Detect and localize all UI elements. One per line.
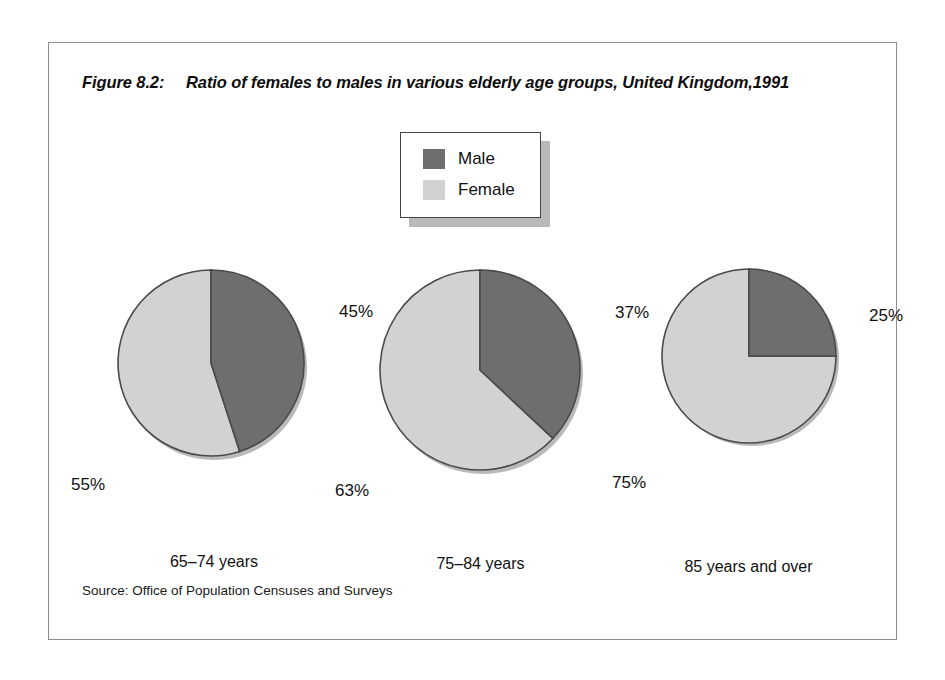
pie-label-male-75-84: 37% [615,303,649,323]
source-note: Source: Office of Population Censuses an… [82,583,392,598]
pie-category-75-84: 75–84 years [378,555,583,573]
pie-slices-75-84 [380,270,580,470]
pie-label-male-65-74: 45% [339,302,373,322]
pie-svg-85-over [662,268,852,458]
legend-box: Male Female [400,132,541,218]
pie-svg-65-74 [111,263,311,463]
figure-frame: Figure 8.2:Ratio of females to males in … [48,42,897,640]
pie-category-65-74: 65–74 years [114,553,314,571]
legend-label-female: Female [458,180,515,200]
pie-label-female-65-74: 55% [71,475,105,495]
pie-slice-male-85-over[interactable] [749,269,836,356]
legend-swatch-male-icon [423,149,445,169]
pie-slices-85-over [662,269,836,443]
figure-title: Figure 8.2:Ratio of females to males in … [82,73,872,92]
pie-chart-85-over: 25% 75% 85 years and over [662,268,852,458]
pie-svg-75-84 [375,265,585,475]
pie-chart-65-74: 45% 55% 65–74 years [111,263,311,463]
legend-item-female[interactable]: Female [423,180,515,200]
legend-item-male[interactable]: Male [423,149,495,169]
pie-category-85-over: 85 years and over [646,558,851,576]
figure-title-text: Ratio of females to males in various eld… [186,73,789,91]
figure-number-label: Figure 8.2: [82,73,186,92]
pie-label-female-85-over: 75% [612,473,646,493]
pie-slices-65-74 [118,270,304,456]
chart-legend: Male Female [400,132,541,218]
legend-swatch-female-icon [423,180,445,200]
pie-chart-75-84: 37% 63% 75–84 years [375,265,585,475]
legend-label-male: Male [458,149,495,169]
pie-label-male-85-over: 25% [869,306,903,326]
pie-label-female-75-84: 63% [335,481,369,501]
